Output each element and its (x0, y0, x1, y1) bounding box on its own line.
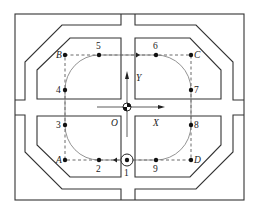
origin-label: O (111, 118, 118, 128)
point-1 (125, 158, 129, 162)
label-B: B (56, 50, 62, 60)
point-2 (97, 158, 101, 162)
outer-wall-lower-right (135, 115, 244, 200)
label-4: 4 (56, 85, 61, 95)
outer-wall-upper-right (135, 14, 244, 100)
y-axis-label: Y (136, 73, 143, 83)
y-axis-arrow-icon (125, 71, 129, 79)
origin-symbol-icon (123, 103, 131, 111)
point-B (63, 53, 67, 57)
label-3: 3 (56, 120, 61, 130)
label-C: C (194, 50, 201, 60)
label-7: 7 (194, 85, 199, 95)
point-D (189, 158, 193, 162)
label-D: D (193, 155, 201, 165)
block-upper-right (135, 38, 221, 99)
x-axis-arrow-icon (158, 105, 165, 109)
outer-wall-lower-left (15, 115, 121, 200)
point-4 (63, 88, 67, 92)
block-lower-left (37, 116, 121, 177)
layout-diagram: B 5 6 C 4 7 3 8 A 2 1 9 D O X Y (0, 0, 253, 213)
block-lower-right (135, 116, 221, 177)
label-8: 8 (194, 120, 199, 130)
label-5: 5 (96, 41, 101, 51)
path-arrow-bottom (113, 158, 117, 163)
label-A: A (55, 155, 62, 165)
block-upper-left (37, 38, 121, 99)
point-C (189, 53, 193, 57)
x-axis-label: X (152, 118, 160, 128)
label-6: 6 (153, 41, 158, 51)
outer-wall-upper-left (15, 14, 121, 100)
point-5 (97, 53, 101, 57)
path-arrow-top (136, 53, 140, 58)
label-2: 2 (96, 164, 101, 174)
point-A (63, 158, 67, 162)
point-3 (63, 123, 67, 127)
point-9 (154, 158, 158, 162)
point-8 (189, 123, 193, 127)
label-1: 1 (124, 168, 129, 178)
point-6 (154, 53, 158, 57)
point-7 (189, 88, 193, 92)
label-9: 9 (153, 164, 158, 174)
